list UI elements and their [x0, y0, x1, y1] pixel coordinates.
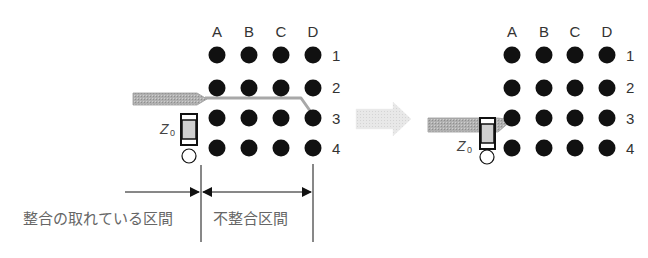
- row-label-4: 4: [332, 140, 340, 157]
- row-label-4: 4: [626, 140, 634, 157]
- pad-d1: [599, 47, 616, 64]
- row-label-1: 1: [626, 47, 634, 64]
- col-label-c: C: [276, 23, 287, 40]
- col-label-c: C: [570, 23, 581, 40]
- diagram-canvas: A B C D 1 2 3 4: [0, 0, 648, 258]
- pad-a1: [504, 47, 521, 64]
- col-label-b: B: [539, 23, 549, 40]
- pad-c2: [567, 80, 584, 97]
- pad-c3: [567, 110, 584, 127]
- unmatched-section-label: 不整合区間: [213, 210, 288, 228]
- pad-c4: [567, 140, 584, 157]
- row-label-3: 3: [332, 110, 340, 127]
- col-label-b: B: [244, 23, 254, 40]
- left-termination-resistor: Z 0: [159, 114, 197, 163]
- pad-b1: [536, 47, 553, 64]
- left-column-labels: A B C D: [212, 23, 319, 40]
- pad-c2: [273, 80, 290, 97]
- pad-a4: [504, 140, 521, 157]
- pad-a3: [209, 110, 226, 127]
- transition-arrow-icon: [356, 102, 411, 136]
- pad-d2: [305, 80, 322, 97]
- pad-d3: [599, 110, 616, 127]
- col-label-a: A: [507, 23, 517, 40]
- right-column-labels: A B C D: [507, 23, 613, 40]
- wide-trace-segment: [428, 118, 512, 132]
- z0-label: Z: [159, 121, 169, 137]
- via-circle-icon: [182, 149, 196, 163]
- pad-d1: [305, 47, 322, 64]
- pad-c1: [567, 47, 584, 64]
- right-panel: A B C D 1 2 3 4: [428, 23, 634, 164]
- z0-subscript: 0: [170, 128, 175, 138]
- pad-d4: [305, 140, 322, 157]
- row-label-3: 3: [626, 110, 634, 127]
- pad-b3: [536, 110, 553, 127]
- right-bga-pads: [504, 47, 616, 157]
- right-row-labels: 1 2 3 4: [626, 47, 634, 157]
- pad-a2: [209, 80, 226, 97]
- resistor-element: [481, 124, 494, 143]
- pad-b2: [536, 80, 553, 97]
- matched-section-label: 整合の取れている区間: [23, 210, 173, 228]
- col-label-a: A: [212, 23, 222, 40]
- pad-c1: [273, 47, 290, 64]
- pad-d4: [599, 140, 616, 157]
- via-circle-icon: [480, 150, 494, 164]
- left-panel: A B C D 1 2 3 4: [23, 23, 340, 242]
- pad-b4: [241, 140, 258, 157]
- pad-a2: [504, 80, 521, 97]
- pad-a1: [209, 47, 226, 64]
- resistor-element: [182, 120, 196, 139]
- row-label-2: 2: [332, 79, 340, 96]
- pad-d3: [305, 110, 322, 127]
- right-trace: [428, 118, 512, 132]
- wide-trace-segment: [133, 93, 207, 105]
- pad-b2: [241, 80, 258, 97]
- left-dimension: 整合の取れている区間 不整合区間: [23, 164, 313, 242]
- pad-b4: [536, 140, 553, 157]
- pad-c4: [273, 140, 290, 157]
- col-label-d: D: [308, 23, 319, 40]
- z0-label: Z: [456, 138, 466, 154]
- col-label-d: D: [602, 23, 613, 40]
- pad-b1: [241, 47, 258, 64]
- pad-a4: [209, 140, 226, 157]
- row-label-2: 2: [626, 79, 634, 96]
- left-row-labels: 1 2 3 4: [332, 47, 340, 157]
- pad-d2: [599, 80, 616, 97]
- pad-a3: [504, 110, 521, 127]
- z0-subscript: 0: [467, 145, 472, 155]
- pad-b3: [241, 110, 258, 127]
- pad-c3: [273, 110, 290, 127]
- row-label-1: 1: [332, 47, 340, 64]
